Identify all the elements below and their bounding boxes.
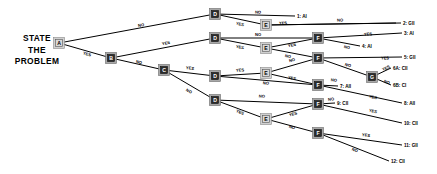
edge-label-no: NO <box>259 93 266 98</box>
outcome-label-out7: 7: AII <box>340 84 351 89</box>
tree-canvas: ABCDDDDEEEEFFFFFG NOYESYESNOYESNONOYESYE… <box>0 0 437 174</box>
outcome-label-out3: 3: AI <box>404 31 414 36</box>
tree-node-d[interactable]: D <box>210 95 221 106</box>
edge-label-yes: YES <box>186 65 195 71</box>
edge-label-yes: YES <box>368 94 377 101</box>
tree-node-d[interactable]: D <box>210 33 221 44</box>
outcome-label-out6a: 6A: CII <box>393 66 408 71</box>
outcome-label-out2: 2: GII <box>403 21 415 26</box>
tree-edge <box>318 133 402 145</box>
edge-label-no: NO <box>351 147 359 154</box>
node-letter: E <box>264 22 268 28</box>
edge-label-no: NO <box>255 9 262 14</box>
tree-edge <box>318 104 402 123</box>
node-letter: D <box>213 35 217 41</box>
outcome-label-out6b: 6B: CI <box>393 83 406 88</box>
decision-tree-diagram: STATE THE PROBLEM ABCDDDDEEEEFFFFFG NOYE… <box>0 0 437 174</box>
node-letter: F <box>316 55 319 61</box>
edge-label-yes: YES <box>288 42 297 49</box>
node-letter: F <box>316 82 319 88</box>
tree-node-e[interactable]: E <box>261 68 272 79</box>
outcome-label-out11: 11: GII <box>404 143 418 148</box>
edge-label-yes: YES <box>362 132 371 138</box>
tree-edge <box>164 70 215 100</box>
edge-label-no: NO <box>288 57 296 64</box>
tree-node-f[interactable]: F <box>313 128 324 139</box>
outcome-label-out8: 8: AII <box>404 101 415 106</box>
edge-label-no: NO <box>255 32 262 37</box>
tree-node-e[interactable]: E <box>261 43 272 54</box>
edge-label-yes: YES <box>381 55 390 60</box>
node-letter: F <box>316 35 319 41</box>
edge-label-no: NO <box>135 59 143 65</box>
edge-labels-layer: NOYESYESNOYESNONOYESYESNONOYESYESNOYESNO… <box>82 9 391 153</box>
tree-node-f[interactable]: F <box>313 99 324 110</box>
tree-node-b[interactable]: B <box>106 53 117 64</box>
node-letter: C <box>162 67 166 73</box>
nodes-layer: ABCDDDDEEEEFFFFFG <box>54 9 378 139</box>
edge-label-no: NO <box>331 77 338 82</box>
node-letter: F <box>316 101 319 107</box>
edge-label-yes: YES <box>364 31 373 36</box>
tree-edge <box>318 38 360 46</box>
edge-label-yes: YES <box>279 20 288 25</box>
edge-label-yes: YES <box>235 44 244 51</box>
edge-label-no: NO <box>337 17 344 22</box>
outcome-label-out9: 9: CII <box>337 101 348 106</box>
tree-edge <box>318 57 402 58</box>
edge-label-no: NO <box>185 87 194 95</box>
tree-edge <box>318 33 402 38</box>
outcome-label-out12: 12: CII <box>391 159 405 164</box>
node-letter: F <box>316 130 319 136</box>
tree-edge <box>164 70 215 76</box>
tree-edge <box>318 58 372 77</box>
edge-label-no: NO <box>263 80 270 86</box>
node-letter: A <box>57 40 61 46</box>
outcome-label-out4: 4: AI <box>362 44 372 49</box>
edge-label-yes: YES <box>368 108 377 115</box>
tree-node-f[interactable]: F <box>313 80 324 91</box>
edge-label-yes: YES <box>235 108 245 116</box>
outcome-label-out10: 10: CII <box>404 121 418 126</box>
node-letter: E <box>264 45 268 51</box>
outcome-label-out5: 5: GII <box>404 55 416 60</box>
node-letter: D <box>213 11 217 17</box>
tree-node-f[interactable]: F <box>313 53 324 64</box>
tree-node-e[interactable]: E <box>261 20 272 31</box>
tree-node-g[interactable]: G <box>367 72 378 83</box>
edge-label-no: NO <box>328 96 335 101</box>
edge-label-yes: YES <box>236 67 245 72</box>
tree-edge <box>59 14 215 43</box>
node-letter: D <box>213 73 217 79</box>
tree-node-a[interactable]: A <box>54 38 65 49</box>
edge-label-yes: YES <box>161 40 170 47</box>
edge-label-no: NO <box>344 44 352 50</box>
edge-label-yes: YES <box>288 110 298 117</box>
node-letter: E <box>264 116 268 122</box>
tree-node-d[interactable]: D <box>210 71 221 82</box>
tree-edge <box>215 100 318 104</box>
node-letter: D <box>213 97 217 103</box>
node-letter: E <box>264 70 268 76</box>
edge-label-yes: YES <box>287 75 296 82</box>
edge-label-yes: YES <box>235 21 244 28</box>
tree-node-c[interactable]: C <box>159 65 170 76</box>
outcome-label-out1: 1: AI <box>297 14 307 19</box>
tree-node-e[interactable]: E <box>261 114 272 125</box>
edge-label-yes: YES <box>82 50 92 57</box>
node-letter: B <box>109 55 113 61</box>
tree-edge <box>215 73 266 76</box>
tree-node-f[interactable]: F <box>313 33 324 44</box>
tree-node-d[interactable]: D <box>210 9 221 20</box>
node-letter: G <box>370 74 374 80</box>
